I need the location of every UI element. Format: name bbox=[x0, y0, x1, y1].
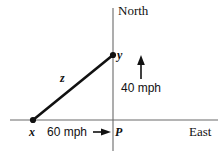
point-marker-y bbox=[110, 52, 116, 58]
axis-label-east: East bbox=[189, 125, 211, 138]
point-label-x: x bbox=[29, 126, 35, 138]
point-label-p: P bbox=[115, 126, 122, 138]
speed-label-north: 40 mph bbox=[121, 82, 161, 94]
diagram-canvas: North East y z x P 40 mph 60 mph bbox=[0, 0, 223, 161]
point-label-y: y bbox=[117, 49, 122, 61]
point-marker-x bbox=[30, 117, 36, 123]
hypotenuse-segment-z bbox=[33, 55, 113, 120]
arrow-up-icon bbox=[137, 55, 145, 79]
arrow-right-icon bbox=[93, 128, 111, 135]
axis-label-north: North bbox=[118, 4, 148, 17]
speed-label-east: 60 mph bbox=[47, 126, 87, 138]
segment-label-z: z bbox=[60, 72, 65, 84]
